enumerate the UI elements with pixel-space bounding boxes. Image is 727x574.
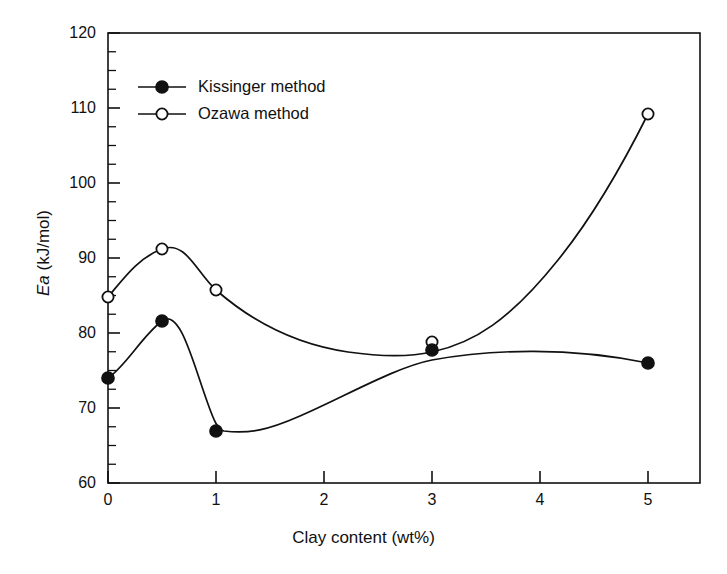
y-axis-title: Ea (kJ/mol)	[34, 123, 54, 383]
y-axis-title-units: (kJ/mol)	[34, 210, 53, 275]
legend-label-ozawa: Ozawa method	[198, 104, 309, 123]
y-tick-label-90: 90	[50, 249, 96, 267]
y-tick-label-110: 110	[50, 99, 96, 117]
x-tick-label-1: 1	[201, 491, 231, 509]
y-tick-label-70: 70	[50, 399, 96, 417]
x-tick-label-5: 5	[633, 491, 663, 509]
y-tick-label-80: 80	[50, 324, 96, 342]
x-axis-title: Clay content (wt%)	[0, 528, 727, 548]
legend-label-kissinger: Kissinger method	[198, 77, 325, 96]
x-tick-label-3: 3	[417, 491, 447, 509]
y-axis-title-symbol: Ea	[34, 275, 53, 296]
x-tick-label-2: 2	[309, 491, 339, 509]
x-tick-label-4: 4	[525, 491, 555, 509]
y-tick-label-60: 60	[50, 474, 96, 492]
y-tick-label-100: 100	[50, 174, 96, 192]
figure-container: 120 110 100 90 80 70 60 0 1 2 3 4 5 Clay…	[0, 0, 727, 574]
plot-frame	[108, 33, 700, 483]
x-tick-label-0: 0	[93, 491, 123, 509]
y-tick-label-120: 120	[50, 24, 96, 42]
chart-canvas	[0, 0, 727, 574]
